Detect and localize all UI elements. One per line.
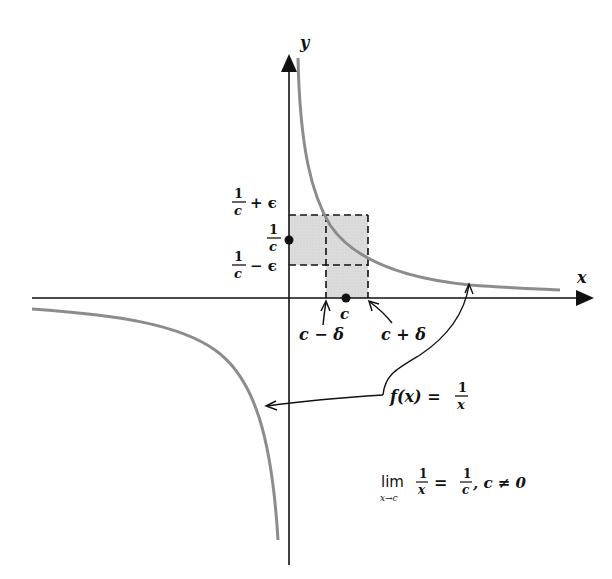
svg-text:1: 1 [234,186,243,201]
svg-text:− ϵ: − ϵ [250,257,277,275]
label-c-minus-delta: c − δ [299,325,344,344]
svg-text:1: 1 [458,380,467,395]
svg-text:c: c [269,239,277,254]
x-axis-label: x [576,268,587,287]
y-axis [281,54,297,565]
svg-text:c: c [234,266,242,281]
svg-text:1: 1 [419,467,427,481]
svg-text:=: = [434,473,447,492]
y-axis-label: y [299,33,311,52]
arrow-c-plus-delta [369,301,392,323]
label-one-over-c-plus-epsilon: 1 c + ϵ [232,186,277,218]
svg-text:lim: lim [381,473,404,491]
svg-text:x: x [417,483,426,497]
svg-text:, c ≠ 0: , c ≠ 0 [472,474,527,492]
svg-text:1: 1 [463,467,471,481]
x-axis [32,290,594,306]
limit-statement: lim x→c 1 x = 1 c , c ≠ 0 [380,467,527,503]
svg-text:+ ϵ: + ϵ [250,194,277,212]
epsilon-delta-box [289,215,368,298]
arrow-c-minus-delta [321,301,330,325]
function-label: f(x) = 1 x [389,380,468,412]
label-c: c [340,305,349,323]
label-c-plus-delta: c + δ [381,325,426,344]
arrow-f-to-left-branch [266,395,383,410]
svg-text:x: x [456,397,465,412]
curve-left-branch [32,309,278,540]
label-one-over-c: 1 c [267,222,281,254]
svg-text:1: 1 [234,249,243,264]
svg-text:1: 1 [269,222,278,237]
svg-text:x→c: x→c [380,493,398,503]
svg-text:c: c [234,203,242,218]
diagram-canvas: y x 1 c + ϵ 1 c 1 c − ϵ c c − δ c + δ f(… [0,0,612,579]
point-one-over-c [285,236,294,245]
svg-text:f(x) =: f(x) = [389,387,441,406]
point-c [342,294,351,303]
svg-text:c: c [462,483,470,497]
